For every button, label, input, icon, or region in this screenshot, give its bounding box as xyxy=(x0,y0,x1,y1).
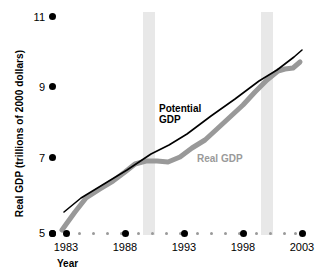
x-tick-dot-minor-1 xyxy=(78,232,81,235)
x-tick-dot-2003 xyxy=(299,230,306,237)
real-gdp-label: Real GDP xyxy=(197,153,243,164)
x-tick-dot-1998 xyxy=(240,230,247,237)
x-tick-dot-minor-15 xyxy=(283,232,286,235)
x-tick-dot-minor-7 xyxy=(165,232,168,235)
x-tick-dot-1993 xyxy=(181,230,188,237)
x-tick-label-1998: 1998 xyxy=(223,241,263,253)
x-tick-dot-minor-9 xyxy=(196,232,199,235)
x-tick-dot-minor-16 xyxy=(294,232,297,235)
x-tick-dot-minor-10 xyxy=(210,232,213,235)
real-gdp-line xyxy=(62,62,300,230)
gdp-chart: Real GDP (trillions of 2000 dollars) 11 … xyxy=(0,0,318,278)
x-tick-label-2003: 2003 xyxy=(282,241,318,253)
x-tick-label-1993: 1993 xyxy=(164,241,204,253)
x-tick-dot-minor-2 xyxy=(92,232,95,235)
x-tick-dot-minor-3 xyxy=(106,232,109,235)
x-axis-origin-dot xyxy=(49,230,56,237)
x-tick-dot-minor-13 xyxy=(255,232,258,235)
x-tick-dot-minor-11 xyxy=(224,232,227,235)
x-tick-dot-1983 xyxy=(63,230,70,237)
x-tick-label-1988: 1988 xyxy=(105,241,145,253)
series-plot-area xyxy=(0,0,318,278)
x-tick-dot-minor-5 xyxy=(137,232,140,235)
x-tick-dot-minor-14 xyxy=(269,232,272,235)
potential-gdp-label: Potential GDP xyxy=(159,103,201,125)
x-tick-label-1983: 1983 xyxy=(46,241,86,253)
x-tick-dot-minor-6 xyxy=(151,232,154,235)
x-axis-title: Year xyxy=(57,258,78,269)
x-tick-dot-1988 xyxy=(122,230,129,237)
